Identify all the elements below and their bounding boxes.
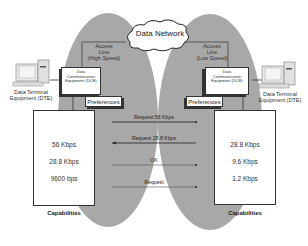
message-label-request-28: Request 28.8 Kbps	[112, 135, 196, 141]
capability-item: 9.6 Kbps	[215, 158, 275, 165]
right-access-line-label: Access Line (Low Speed)	[190, 43, 234, 61]
dce-label-line: Equipment (DCE)	[62, 79, 100, 84]
right-capabilities-box: 28.8 Kbps 9.6 Kbps 1.2 Kbps	[214, 110, 276, 205]
message-label-request-56: Request 56 Kbps	[112, 114, 196, 120]
dce-label-line: Equipment (DCE)	[206, 79, 248, 84]
access-label-line: (High Speed)	[82, 55, 126, 61]
capability-item: 1.2 Kbps	[215, 175, 275, 182]
access-label-line: (Low Speed)	[190, 55, 234, 61]
capability-item: 56 Kbps	[34, 141, 94, 148]
right-dte-label: Data Terminal Equipment (DTE)	[252, 91, 308, 103]
right-capabilities-label: Capabilities	[214, 210, 276, 216]
dte-label-line: Equipment (DTE)	[252, 97, 308, 103]
left-dte-label: Data Terminal Equipment (DTE)	[6, 89, 56, 101]
capability-item: 28.8 Kbps	[215, 141, 275, 148]
left-computer-icon	[13, 60, 49, 86]
data-network-label: Data Network	[134, 29, 186, 38]
left-access-line-label: Access Line (High Speed)	[82, 43, 126, 61]
left-capabilities-box: 56 Kbps 28.8 Kbps 9600 bps	[33, 110, 95, 206]
message-label-request: Request	[112, 179, 196, 185]
left-dce-box: Data Communication Equipment (DCE)	[61, 67, 101, 95]
right-dce-box: Data Communication Equipment (DCE)	[205, 67, 249, 95]
left-capabilities-label: Capabilities	[33, 210, 95, 216]
dte-label-line: Equipment (DTE)	[6, 95, 56, 101]
right-computer-icon	[259, 62, 295, 88]
capability-item: 28.8 Kbps	[34, 158, 94, 165]
right-preferences-box: Preferences	[186, 96, 223, 107]
message-label-ok: OK	[112, 157, 196, 163]
left-preferences-box: Preferences	[85, 96, 122, 107]
capability-item: 9600 bps	[34, 175, 94, 182]
